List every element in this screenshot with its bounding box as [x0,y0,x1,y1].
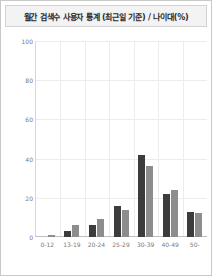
y-axis-tick-label: 100 [7,38,33,45]
bar-groups [35,41,207,237]
bar-group [109,41,134,237]
y-axis-tick-label: 80 [7,77,33,84]
bar-group [182,41,207,237]
bar[interactable] [114,206,121,237]
bar[interactable] [195,213,202,237]
bar-chart: 100806040200 0-1213-1920-2425-2930-3940-… [5,29,207,271]
bar-group [84,41,109,237]
x-axis-tick-label: 50- [182,241,207,255]
bar-group [158,41,183,237]
bar[interactable] [138,155,145,237]
y-axis: 100806040200 [5,41,33,237]
bar[interactable] [89,225,96,237]
page-title: 월간 검색수 사용자 통계 (최근일 기준) / 나이대(%) [24,11,189,22]
x-axis-tick-label: 25-29 [109,241,134,255]
y-axis-tick-label: 0 [7,234,33,241]
bar[interactable] [146,166,153,237]
x-axis: 0-1213-1920-2425-2930-3940-4950- [35,241,207,255]
x-axis-tick-label: 20-24 [84,241,109,255]
x-axis-tick-label: 0-12 [35,241,60,255]
x-axis-tick-label: 30-39 [133,241,158,255]
y-axis-tick-label: 20 [7,194,33,201]
bar[interactable] [97,219,104,237]
bar[interactable] [48,235,55,237]
bar[interactable] [122,210,129,237]
x-axis-tick-label: 13-19 [60,241,85,255]
bar[interactable] [187,212,194,237]
y-axis-tick-label: 60 [7,116,33,123]
search-stats-widget: 월간 검색수 사용자 통계 (최근일 기준) / 나이대(%) 10080604… [0,0,212,276]
x-axis-tick-label: 40-49 [158,241,183,255]
bar[interactable] [171,190,178,237]
bar-group [35,41,60,237]
y-axis-tick-label: 40 [7,155,33,162]
bar-group [60,41,85,237]
bar-group [133,41,158,237]
bar[interactable] [64,231,71,237]
widget-title-bar: 월간 검색수 사용자 통계 (최근일 기준) / 나이대(%) [5,5,207,27]
bar[interactable] [163,194,170,237]
bar[interactable] [72,225,79,237]
